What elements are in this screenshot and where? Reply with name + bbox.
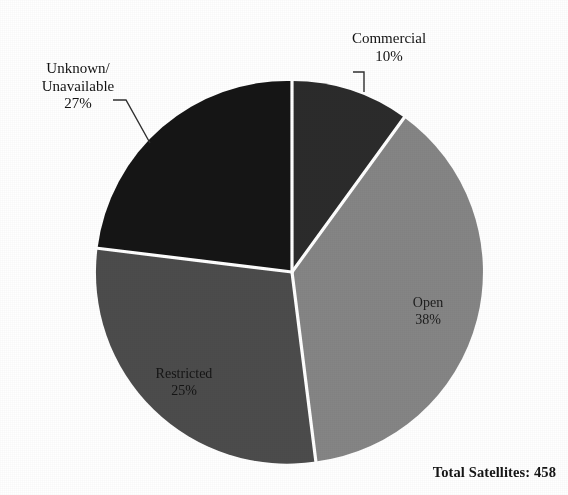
slice-label-unknown-name-line2: Unavailable: [8, 78, 148, 96]
leader-line-commercial: [353, 72, 364, 92]
pie-slice-restricted[interactable]: [96, 248, 316, 463]
slice-label-restricted: Restricted 25%: [128, 366, 240, 400]
slice-label-commercial: Commercial 10%: [330, 30, 448, 65]
slice-label-open: Open 38%: [392, 295, 464, 329]
slice-label-open-percent: 38%: [392, 312, 464, 329]
pie-chart-figure: Commercial 10% Unknown/ Unavailable 27% …: [0, 0, 568, 495]
slice-label-restricted-name: Restricted: [128, 366, 240, 383]
slice-label-restricted-percent: 25%: [128, 383, 240, 400]
slice-label-unknown-name-line1: Unknown/: [8, 60, 148, 78]
total-satellites-text: Total Satellites: 458: [433, 464, 556, 481]
slice-label-unknown: Unknown/ Unavailable 27%: [8, 60, 148, 113]
slice-label-commercial-percent: 10%: [330, 48, 448, 66]
slice-label-open-name: Open: [392, 295, 464, 312]
slice-label-commercial-name: Commercial: [330, 30, 448, 48]
slice-label-unknown-percent: 27%: [8, 95, 148, 113]
